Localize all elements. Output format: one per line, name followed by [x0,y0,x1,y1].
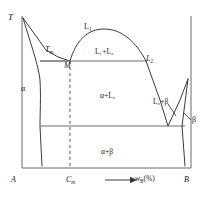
beta-leader-line [184,113,191,120]
label-alpha-plus-liquid2-field: α+L₂ [100,92,115,100]
phase-diagram-figure: T L1 Tm L₁+L₂ L2 M α α+L₂ L₂+β β α+β A C… [0,0,213,198]
composition-subscript: m [71,179,75,185]
label-monotectic-point: M [64,62,71,70]
x-axis-label: wB(%) [135,175,155,183]
label-alpha-field: α [21,85,25,93]
x-axis-right-endpoint-label: B [184,176,189,184]
y-axis-label-temperature: T [8,13,13,22]
label-monotectic-temperature: Tm [45,46,53,54]
liquid-single-subscript: 1 [89,26,92,32]
monotectic-temperature-subscript: m [49,49,53,55]
label-two-liquid-field: L₁+L₂ [95,48,114,56]
x-axis-composition-label: Cm [66,176,75,184]
liquidus-right-descending [146,61,168,126]
label-liquid2-point: L2 [146,55,153,63]
x-axis-label-unit: (%) [143,174,154,183]
miscibility-gap-dome [70,29,146,61]
label-liquid2-plus-beta-field: L₂+β [153,98,168,106]
liquid2-point-subscript: 2 [150,58,153,64]
x-axis-left-endpoint-label: A [11,176,16,184]
label-beta-field: β [192,116,196,124]
label-alpha-plus-beta-field: α+β [101,148,113,156]
l2-beta-leader-line [168,104,176,116]
label-liquid-single-field: L1 [84,23,92,31]
x-axis-label-subscript: B [140,178,143,184]
